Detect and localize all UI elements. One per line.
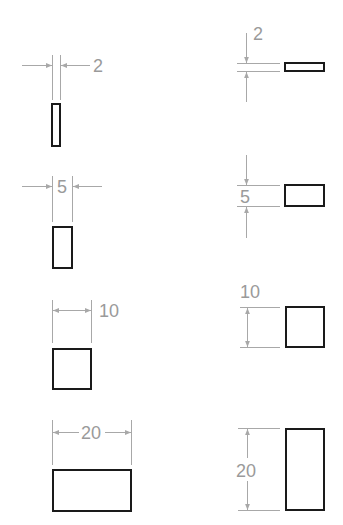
rectangle-shape <box>53 470 131 511</box>
rectangle-shape <box>53 349 91 389</box>
dimension-label: 10 <box>240 282 260 302</box>
rectangle-shape <box>52 104 60 146</box>
rectangle-shape <box>286 307 324 347</box>
dimension-left-2: 2 <box>22 55 103 146</box>
rectangle-shape <box>286 429 324 510</box>
dimension-label: 10 <box>99 301 119 321</box>
dimension-right-20: 20 <box>236 429 324 511</box>
rectangle-shape <box>285 63 324 71</box>
dimension-label: 5 <box>240 187 250 207</box>
rectangle-shape <box>285 185 324 206</box>
dimension-right-5: 5 <box>237 155 324 238</box>
dimension-right-2: 2 <box>237 24 324 102</box>
dimension-right-10: 10 <box>240 282 324 348</box>
dimension-label: 20 <box>236 461 256 481</box>
rectangle-shape <box>53 227 72 268</box>
dimension-label: 20 <box>81 423 101 443</box>
dimension-label: 5 <box>57 177 67 197</box>
dimension-left-10: 10 <box>53 300 120 389</box>
dimension-diagram: 2 5 10 20 2 <box>0 0 343 525</box>
dimension-label: 2 <box>93 56 103 76</box>
dimension-left-20: 20 <box>53 420 132 511</box>
dimension-label: 2 <box>253 24 263 44</box>
dimension-left-5: 5 <box>22 176 102 268</box>
